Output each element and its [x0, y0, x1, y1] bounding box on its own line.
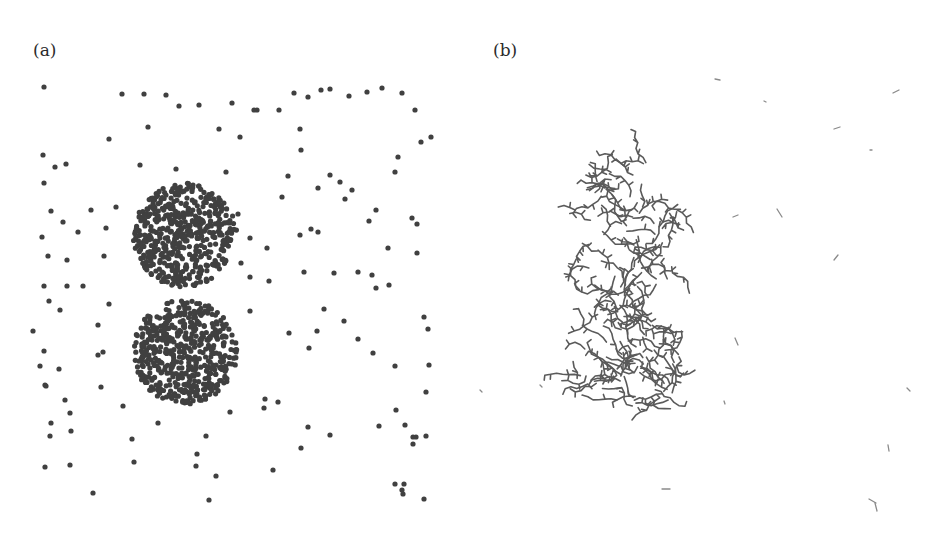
particle-dot	[213, 372, 218, 377]
network-branch	[574, 309, 584, 326]
network-branch	[573, 362, 578, 379]
particle-dot	[176, 332, 181, 337]
particle-dot	[177, 240, 182, 245]
particle-dot	[140, 343, 145, 348]
particle-dot	[203, 226, 208, 231]
particle-dot	[232, 348, 237, 353]
particle-dot	[137, 162, 142, 167]
particle-dot	[266, 278, 271, 283]
particle-dot	[203, 354, 208, 359]
particle-dot	[182, 325, 187, 330]
particle-dot	[186, 391, 191, 396]
particle-dot	[213, 202, 218, 207]
particle-dot	[167, 382, 172, 387]
particle-dot	[157, 260, 162, 265]
particle-dot	[149, 272, 154, 277]
particle-dot	[183, 330, 188, 335]
particle-dot	[193, 390, 198, 395]
particle-dot	[327, 432, 332, 437]
network-branch	[603, 232, 634, 249]
particle-dot	[218, 366, 223, 371]
particle-dot	[145, 124, 150, 129]
particle-dot	[164, 301, 169, 306]
particle-dot	[196, 102, 201, 107]
particle-dot	[188, 324, 193, 329]
particle-dot	[90, 490, 95, 495]
particle-dot	[190, 254, 195, 259]
particle-dot	[215, 337, 220, 342]
particle-dot	[176, 279, 181, 284]
particle-dot	[220, 206, 225, 211]
particle-dot	[67, 410, 72, 415]
particle-dot	[198, 195, 203, 200]
particle-dot	[206, 192, 211, 197]
particle-dot	[167, 393, 172, 398]
particle-dot	[183, 311, 188, 316]
particle-dot	[229, 332, 234, 337]
particle-dot	[146, 337, 151, 342]
particle-dot	[119, 91, 124, 96]
particle-dot	[208, 242, 213, 247]
particle-dot	[202, 211, 207, 216]
particle-dot	[254, 107, 259, 112]
particle-dot	[213, 313, 218, 318]
particle-dot	[315, 185, 320, 190]
particle-dot	[201, 387, 206, 392]
particle-dot	[301, 269, 306, 274]
particle-dot	[180, 189, 185, 194]
particle-dot	[213, 211, 218, 216]
particle-dot	[392, 481, 397, 486]
particle-dot	[247, 274, 252, 279]
particle-dot	[183, 238, 188, 243]
particle-dot	[159, 252, 164, 257]
network-branch	[604, 222, 622, 235]
network-branch	[624, 377, 633, 398]
network-branch	[627, 224, 655, 234]
particle-dot	[186, 367, 191, 372]
particle-dot	[157, 189, 162, 194]
particle-dot	[133, 246, 138, 251]
fiber-fragment	[733, 215, 738, 217]
particle-dot	[194, 258, 199, 263]
particle-dot	[193, 463, 198, 468]
particle-dot	[139, 356, 144, 361]
particle-dot	[198, 365, 203, 370]
particle-dot	[147, 321, 152, 326]
particle-dot	[218, 354, 223, 359]
particle-dot	[235, 211, 240, 216]
particle-dot	[223, 258, 228, 263]
particle-dot	[147, 370, 152, 375]
particle-dot	[221, 239, 226, 244]
particle-dot	[219, 378, 224, 383]
particle-dot	[207, 230, 212, 235]
particle-dot	[149, 378, 154, 383]
particle-dot	[174, 198, 179, 203]
particle-dot	[209, 276, 214, 281]
particle-dot	[385, 245, 390, 250]
particle-dot	[167, 312, 172, 317]
particle-dot	[198, 306, 203, 311]
particle-dot	[169, 212, 174, 217]
particle-dot	[30, 328, 35, 333]
particle-dot	[182, 350, 187, 355]
particle-dot	[132, 344, 137, 349]
network-branch	[566, 340, 585, 349]
particle-dot	[188, 319, 193, 324]
particle-dot	[113, 204, 118, 209]
particle-dot	[262, 396, 267, 401]
particle-dot	[192, 329, 197, 334]
particle-dot	[370, 350, 375, 355]
particle-dot	[140, 335, 145, 340]
particle-dot	[146, 362, 151, 367]
particle-dot	[331, 270, 336, 275]
particle-dot	[412, 107, 417, 112]
particle-dot	[231, 227, 236, 232]
particle-dot	[216, 126, 221, 131]
particle-dot	[180, 375, 185, 380]
particle-dot	[138, 256, 143, 261]
panel-a-scatter	[30, 84, 433, 502]
particle-dot	[158, 344, 163, 349]
particle-dot	[197, 349, 202, 354]
particle-dot	[203, 433, 208, 438]
particle-dot	[221, 315, 226, 320]
